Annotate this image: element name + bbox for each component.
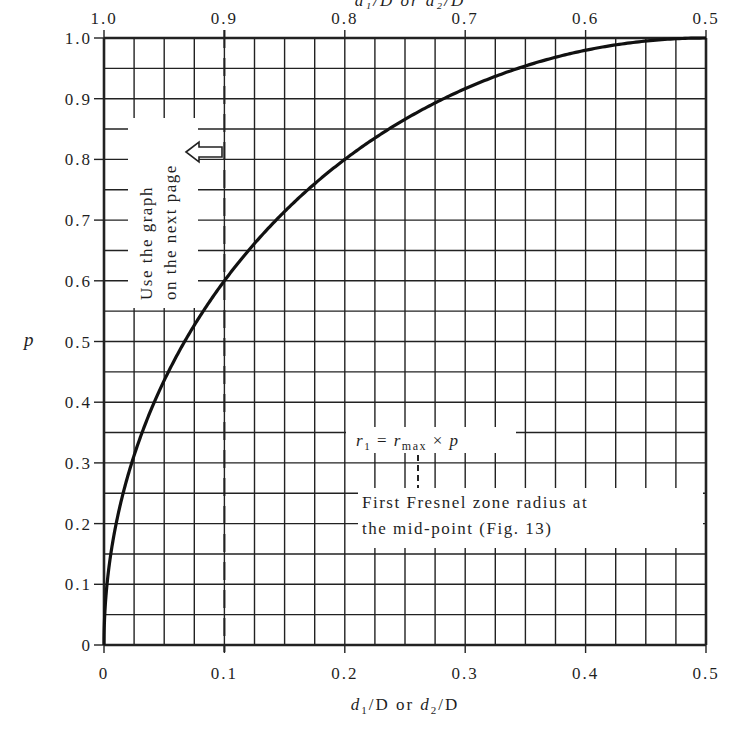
fresnel-line-2: the mid-point (Fig. 13) (362, 519, 552, 538)
fresnel-chart: d₁/D or d₂/D 00.10.20.30.40.51.00.90.80.… (0, 0, 738, 738)
note-line-1: Use the graph (137, 186, 156, 300)
y-axis-label: p (22, 329, 34, 350)
top-x-tick-label: 0.5 (692, 9, 719, 28)
y-tick-label: 0.3 (65, 454, 92, 473)
x-tick-label: 0.2 (331, 664, 358, 683)
axis-ticks: 00.10.20.30.40.51.00.90.80.70.60.500.10.… (65, 9, 720, 683)
y-tick-label: 0.7 (65, 211, 92, 230)
y-tick-label: 0.4 (65, 393, 92, 412)
top-x-tick-label: 1.0 (90, 9, 117, 28)
x-tick-label: 0.4 (572, 664, 599, 683)
top-x-tick-label: 0.6 (572, 9, 599, 28)
top-x-tick-label: 0.8 (331, 9, 358, 28)
y-tick-label: 0 (82, 636, 93, 655)
top-x-tick-label: 0.7 (452, 9, 479, 28)
y-tick-label: 0.2 (65, 515, 92, 534)
top-x-tick-label: 0.9 (211, 9, 238, 28)
x-tick-label: 0.5 (692, 664, 719, 683)
top-axis-title-partial: d₁/D or d₂/D (355, 0, 465, 10)
y-tick-label: 0.6 (65, 272, 92, 291)
y-tick-label: 0.8 (65, 150, 92, 169)
note-line-2: on the next page (161, 164, 180, 300)
y-tick-label: 0.1 (65, 575, 92, 594)
x-axis-label: d1/D or d2/D (351, 695, 460, 716)
x-tick-label: 0.3 (452, 664, 479, 683)
y-tick-label: 1.0 (65, 29, 92, 48)
x-tick-label: 0.1 (211, 664, 238, 683)
y-tick-label: 0.5 (65, 333, 92, 352)
x-tick-label: 0 (99, 664, 110, 683)
fresnel-line-1: First Fresnel zone radius at (362, 493, 588, 512)
y-tick-label: 0.9 (65, 90, 92, 109)
